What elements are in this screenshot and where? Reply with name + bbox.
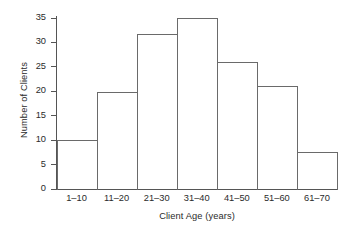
x-axis-tick-label: 61–70 bbox=[297, 193, 337, 204]
x-axis-tick-label: 11–20 bbox=[97, 193, 137, 204]
histogram-bar bbox=[57, 140, 98, 190]
x-axis-tick-label: 51–60 bbox=[257, 193, 297, 204]
x-axis-tick-label: 21–30 bbox=[137, 193, 177, 204]
x-axis-tick-label: 1–10 bbox=[57, 193, 97, 204]
x-axis-title: Client Age (years) bbox=[57, 211, 337, 221]
histogram-bar bbox=[257, 86, 298, 190]
histogram-bar bbox=[297, 152, 338, 190]
histogram-bar bbox=[137, 34, 178, 190]
histogram-chart: Number of Clients 05101520253035 1–1011–… bbox=[0, 0, 351, 238]
x-axis-tick-label: 31–40 bbox=[177, 193, 217, 204]
histogram-bar bbox=[217, 62, 258, 190]
histogram-bar bbox=[97, 92, 138, 190]
histogram-bar bbox=[177, 18, 218, 190]
x-axis-tick-label: 41–50 bbox=[217, 193, 257, 204]
